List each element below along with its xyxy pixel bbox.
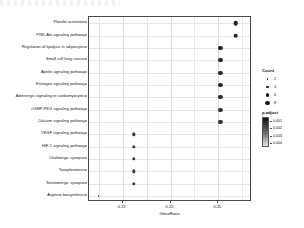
data-point	[218, 95, 222, 99]
colorbar-tick-mark	[270, 121, 272, 122]
legend-count-entry: 4	[262, 83, 304, 91]
colorbar-tick-mark	[270, 128, 272, 129]
y-axis-tick-mark	[85, 96, 87, 97]
data-point	[218, 120, 222, 124]
y-axis-tick-mark	[85, 182, 87, 183]
data-point	[233, 33, 238, 38]
legend-count-label: 6	[274, 93, 276, 97]
colorbar-tick-label: 0.004	[273, 141, 282, 145]
y-axis-tick-mark	[85, 83, 87, 84]
grid-line-horizontal	[89, 110, 250, 111]
top-edge-artifact	[0, 0, 120, 6]
y-axis-tick-label: Cholinergic synapse	[49, 156, 85, 160]
data-point	[218, 83, 222, 87]
legend-count-dot	[265, 101, 270, 106]
y-axis-tick-label: Adrenergic signaling in cardiomyocytes	[16, 94, 85, 98]
y-axis-tick-mark	[85, 71, 87, 72]
data-point	[132, 182, 135, 185]
grid-line-horizontal	[89, 97, 250, 98]
y-axis-tick-mark	[85, 22, 87, 23]
legend-count-entry: 8	[262, 99, 304, 107]
grid-line-vertical-major	[123, 17, 124, 200]
y-axis-tick-label: Small cell lung cancer	[46, 57, 85, 61]
y-axis-tick-label: Calcium signaling pathway	[38, 119, 85, 123]
y-axis-tick-mark	[85, 194, 87, 195]
y-axis-tick-mark	[85, 108, 87, 109]
x-axis-tick-mark	[170, 201, 171, 203]
colorbar-gradient	[262, 117, 269, 147]
y-axis-tick-label: HIF-1 signaling pathway	[42, 143, 85, 147]
legend-count-label: 2	[274, 77, 276, 81]
y-axis-tick-label: Toxoplasmosis	[59, 168, 85, 172]
legend-count-dot-box	[262, 93, 273, 97]
colorbar-tick-mark	[270, 136, 272, 137]
y-axis-tick-label: VEGF signaling pathway	[41, 131, 85, 135]
colorbar-tick-mark	[270, 143, 272, 144]
y-axis-tick-label: Platelet activation	[54, 20, 85, 24]
legend-count-label: 8	[274, 101, 276, 105]
kegg-dotplot-chart: Platelet activationPI3K-Akt signaling pa…	[0, 0, 304, 228]
grid-line-horizontal	[89, 73, 250, 74]
x-axis-tick-label: 0.15	[118, 204, 126, 209]
x-axis-tick-mark	[122, 201, 123, 203]
y-axis-tick-label: PI3K-Akt signaling pathway	[36, 32, 85, 36]
data-point	[218, 46, 222, 50]
y-axis-labels: Platelet activationPI3K-Akt signaling pa…	[0, 16, 85, 201]
x-axis-tick-label: 0.20	[166, 204, 174, 209]
legend-count-entry: 6	[262, 91, 304, 99]
grid-line-vertical-major	[171, 17, 172, 200]
grid-line-horizontal	[89, 196, 250, 197]
legend-count-dot-box	[262, 78, 273, 80]
grid-line-horizontal	[89, 85, 250, 86]
data-point	[218, 58, 222, 62]
y-axis-tick-label: cGMP-PKG signaling pathway	[31, 106, 85, 110]
y-axis-tick-mark	[85, 120, 87, 121]
grid-line-horizontal	[89, 134, 250, 135]
grid-line-horizontal	[89, 171, 250, 172]
grid-line-horizontal	[89, 60, 250, 61]
y-axis-tick-mark	[85, 145, 87, 146]
y-axis-tick-mark	[85, 170, 87, 171]
legend-count-dot-box	[262, 101, 273, 106]
legend-count-dot	[266, 93, 270, 97]
grid-line-horizontal	[89, 159, 250, 160]
legend-count-dot	[267, 78, 269, 80]
data-point	[132, 169, 135, 172]
y-axis-tick-mark	[85, 34, 87, 35]
colorbar-ticks: 0.0010.0020.0030.004	[270, 117, 300, 147]
legend-count-entry: 2	[262, 75, 304, 83]
y-axis-tick-label: Estrogen signaling pathway	[36, 82, 85, 86]
data-point	[132, 157, 135, 160]
grid-line-vertical-minor	[242, 17, 243, 200]
y-axis-tick-mark	[85, 59, 87, 60]
data-point	[233, 21, 238, 26]
grid-line-vertical-minor	[147, 17, 148, 200]
legend-count-dot	[266, 86, 269, 89]
y-axis-tick-label: Regulation of lipolysis in adipocytes	[22, 45, 85, 49]
y-axis-tick-label: Serotonergic synapse	[46, 180, 85, 184]
data-point	[132, 145, 135, 148]
grid-line-horizontal	[89, 23, 250, 24]
grid-line-horizontal	[89, 48, 250, 49]
data-point	[132, 132, 135, 135]
colorbar-tick-label: 0.001	[273, 119, 282, 123]
data-point	[218, 70, 222, 74]
x-axis-title: GeneRatio	[88, 211, 251, 216]
y-axis-tick-label: Apelin signaling pathway	[41, 69, 85, 73]
grid-line-horizontal	[89, 184, 250, 185]
data-point	[218, 107, 222, 111]
colorbar-tick-label: 0.002	[273, 126, 282, 130]
grid-line-horizontal	[89, 36, 250, 37]
data-point	[98, 195, 100, 197]
x-axis-tick-mark	[217, 201, 218, 203]
legend-count-dot-box	[262, 86, 273, 89]
y-axis-tick-label: Arginine biosynthesis	[47, 193, 85, 197]
colorbar-wrap: 0.0010.0020.0030.004	[262, 117, 304, 147]
grid-line-vertical-minor	[99, 17, 100, 200]
y-axis-tick-mark	[85, 157, 87, 158]
legend-count-label: 4	[274, 85, 276, 89]
legend-count-title: Count	[262, 68, 304, 73]
grid-line-horizontal	[89, 147, 250, 148]
grid-line-vertical-minor	[194, 17, 195, 200]
y-axis-tick-mark	[85, 46, 87, 47]
